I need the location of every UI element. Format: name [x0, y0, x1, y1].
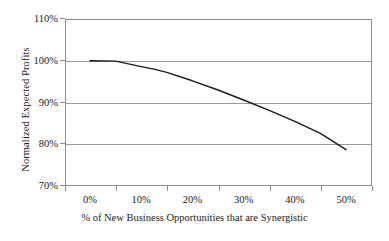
y-tick-label-90%: 90% [14, 97, 58, 108]
plot-area [65, 19, 372, 186]
x-tick-mark-7 [372, 186, 373, 191]
gridline-90% [66, 103, 371, 104]
gridline-80% [66, 144, 371, 145]
x-tick-mark-5 [270, 186, 271, 191]
x-tick-label-10%: 10% [121, 194, 161, 205]
x-tick-mark-4 [219, 186, 220, 191]
x-tick-mark-1 [65, 186, 66, 191]
x-tick-label-50%: 50% [326, 194, 366, 205]
x-tick-label-20%: 20% [172, 194, 212, 205]
gridline-100% [66, 61, 371, 62]
x-tick-label-40%: 40% [275, 194, 315, 205]
x-tick-label-30%: 30% [224, 194, 264, 205]
y-tick-label-100%: 100% [14, 55, 58, 66]
x-tick-mark-2 [116, 186, 117, 191]
y-tick-label-70%: 70% [14, 180, 58, 191]
x-tick-mark-3 [167, 186, 168, 191]
x-tick-label-0%: 0% [70, 194, 110, 205]
x-axis-title: % of New Business Opportunities that are… [0, 212, 389, 223]
line-chart: Normalized Expected Profits 70%80%90%100… [0, 0, 389, 241]
x-tick-mark-6 [321, 186, 322, 191]
y-tick-label-110%: 110% [14, 13, 58, 24]
y-axis-title: Normalized Expected Profits [20, 25, 31, 195]
y-tick-label-80%: 80% [14, 138, 58, 149]
